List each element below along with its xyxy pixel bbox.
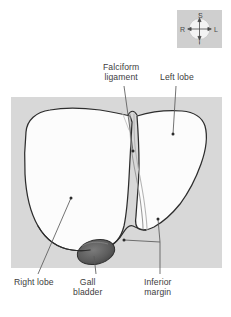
label-falciform-ligament: Falciform ligament	[103, 62, 139, 83]
compass-label-left: L	[214, 26, 218, 33]
label-inferior-line2: margin	[144, 287, 172, 297]
label-gall-line1: Gall	[73, 277, 102, 287]
label-gall-line2: bladder	[73, 287, 102, 297]
orientation-compass: S I R L	[177, 10, 222, 48]
label-left-lobe: Left lobe	[160, 72, 194, 82]
label-left-lobe-line1: Left lobe	[160, 72, 194, 82]
compass-label-right: R	[180, 26, 185, 33]
compass-label-superior: S	[198, 12, 203, 19]
compass-label-inferior: I	[199, 38, 201, 45]
label-inferior-line1: Inferior	[144, 277, 172, 287]
liver-anatomy-figure: Falciform ligament Left lobe Right lobe …	[0, 0, 231, 317]
dot-right-lobe	[70, 197, 73, 200]
label-falciform-line2: ligament	[103, 72, 139, 82]
dot-falciform	[132, 150, 135, 153]
label-right-lobe: Right lobe	[14, 277, 54, 287]
label-inferior-margin: Inferior margin	[144, 277, 172, 298]
label-falciform-line1: Falciform	[103, 62, 139, 72]
dot-inferior-margin-right	[157, 218, 160, 221]
label-right-lobe-line1: Right lobe	[14, 277, 54, 287]
dot-inferior-margin-left	[123, 239, 126, 242]
dot-left-lobe	[172, 133, 175, 136]
label-gall-bladder: Gall bladder	[73, 277, 102, 298]
